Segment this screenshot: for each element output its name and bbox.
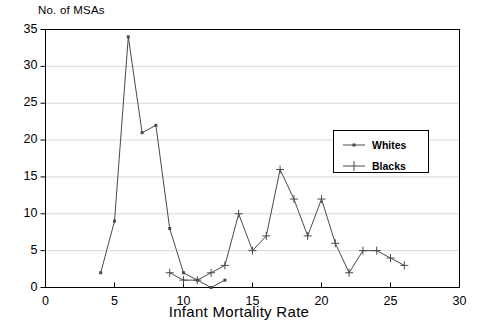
marker-plus-blacks-8: [276, 166, 284, 174]
marker-plus-blacks-0: [166, 269, 174, 277]
legend-item-blacks[interactable]: Blacks: [341, 159, 406, 173]
marker-plus-blacks-10: [304, 232, 312, 240]
marker-plus-blacks-15: [373, 247, 381, 255]
marker-dot-whites-4: [154, 124, 157, 127]
marker-plus-blacks-3: [207, 269, 215, 277]
marker-plus-blacks-2: [193, 276, 201, 284]
y-tick-label-0: 0: [31, 280, 38, 294]
legend-label-blacks: Blacks: [372, 160, 406, 172]
marker-dot-whites-6: [182, 271, 185, 274]
y-axis-title: No. of MSAs: [38, 4, 105, 16]
x-tick-label-5: 5: [95, 294, 135, 308]
marker-dot-whites-2: [127, 35, 130, 38]
marker-dot-whites-9: [223, 279, 226, 282]
marker-plus-blacks-9: [290, 195, 298, 203]
y-tick-label-30: 30: [24, 58, 38, 72]
y-tick-label-5: 5: [31, 243, 38, 257]
x-tick-label-30: 30: [440, 294, 478, 308]
marker-dot-whites-1: [113, 220, 116, 223]
marker-plus-blacks-17: [400, 261, 408, 269]
marker-plus-blacks-1: [180, 276, 188, 284]
plus-marker-icon: [341, 159, 367, 173]
y-tick-label-35: 35: [24, 22, 38, 36]
marker-dot-whites-5: [168, 227, 171, 230]
marker-plus-blacks-16: [387, 254, 395, 262]
dot-marker-icon: [341, 138, 367, 152]
legend-label-whites: Whites: [372, 139, 406, 151]
marker-dot-whites-3: [141, 131, 144, 134]
y-tick-label-25: 25: [24, 95, 38, 109]
y-tick-label-20: 20: [24, 132, 38, 146]
marker-plus-blacks-13: [345, 269, 353, 277]
marker-plus-blacks-4: [221, 261, 229, 269]
marker-plus-blacks-12: [331, 239, 339, 247]
marker-plus-blacks-11: [318, 195, 326, 203]
x-tick-label-0: 0: [26, 294, 66, 308]
x-tick-label-15: 15: [233, 294, 273, 308]
marker-dot-whites-0: [99, 271, 102, 274]
y-tick-label-10: 10: [24, 206, 38, 220]
chart-legend: WhitesBlacks: [333, 130, 429, 173]
x-tick-label-10: 10: [164, 294, 204, 308]
y-tick-label-15: 15: [24, 169, 38, 183]
marker-plus-blacks-5: [235, 210, 243, 218]
chart-root: No. of MSAs Infant Mortality Rate Whites…: [0, 0, 478, 331]
series-line-blacks: [170, 170, 405, 281]
x-tick-label-25: 25: [371, 294, 411, 308]
series-line-whites: [101, 37, 225, 288]
marker-plus-blacks-14: [359, 247, 367, 255]
x-tick-label-20: 20: [302, 294, 342, 308]
legend-item-whites[interactable]: Whites: [341, 138, 406, 152]
marker-dot-whites-8: [210, 286, 213, 289]
